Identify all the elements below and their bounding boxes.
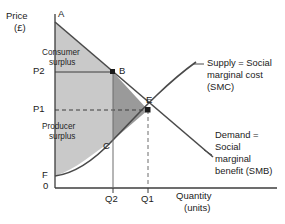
quantity-axis-title-line1: Quantity <box>176 190 211 201</box>
supply-note-line2: marginal cost <box>207 69 263 81</box>
point-label-e: E <box>146 95 152 106</box>
quantity-axis-title-line2: (units) <box>184 202 210 213</box>
demand-note-line3: marginal <box>215 153 251 165</box>
demand-note-line4: benefit (SMB) <box>215 165 272 177</box>
supply-note-line1: Supply = Social <box>207 57 272 69</box>
consumer-surplus-label-line1: Consumer <box>42 48 80 57</box>
consumer-surplus-label-line2: surplus <box>49 58 75 67</box>
price-tick-f: F <box>42 170 48 181</box>
demand-note-line1: Demand = <box>215 129 259 141</box>
price-tick-p1: P1 <box>33 104 45 115</box>
price-axis-title-line1: Price <box>6 10 28 21</box>
producer-surplus-label-line1: Producer <box>42 122 75 131</box>
point-e-marker <box>145 107 151 113</box>
supply-note-line3: (SMC) <box>207 81 234 93</box>
price-axis-title-line2: (£) <box>14 22 26 33</box>
origin-label: 0 <box>43 181 48 192</box>
point-label-c: C <box>103 141 110 152</box>
point-label-a: A <box>58 9 64 20</box>
price-tick-p2: P2 <box>33 66 45 77</box>
deadweight-loss-shade <box>113 72 148 140</box>
supply-demand-diagram: Price (£) Quantity (units) P2 P1 F 0 Q2 … <box>0 0 285 224</box>
point-label-b: B <box>119 66 125 77</box>
demand-note-leader <box>204 150 212 155</box>
point-b-marker <box>110 69 115 74</box>
quantity-tick-q2: Q2 <box>105 194 118 205</box>
producer-surplus-label-line2: surplus <box>49 132 75 141</box>
quantity-tick-q1: Q1 <box>141 194 154 205</box>
demand-note-line2: Social <box>215 141 241 153</box>
